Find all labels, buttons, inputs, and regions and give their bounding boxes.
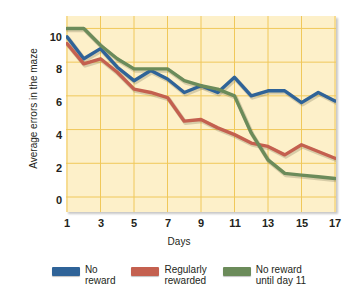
x-tick-label: 11 (223, 218, 247, 229)
legend-label: No reward until day 11 (256, 264, 306, 286)
y-tick-label: 8 (40, 64, 62, 75)
x-tick-label: 9 (189, 218, 213, 229)
plot-area (66, 16, 336, 212)
series-line-shadow (68, 38, 336, 104)
y-axis-tick-labels: 10 8 6 4 2 0 (36, 0, 62, 306)
x-axis-tick-labels: 1 3 5 7 9 11 13 15 17 (0, 218, 358, 234)
legend-swatch-no-reward (52, 267, 80, 276)
x-tick-label: 5 (122, 218, 146, 229)
legend-label: Regularly rewarded (164, 264, 206, 286)
legend-item-regularly-rewarded[interactable]: Regularly rewarded (131, 264, 206, 304)
chart-legend: No reward Regularly rewarded No reward u… (0, 264, 358, 304)
x-tick-label: 17 (323, 218, 347, 229)
plot-canvas (66, 16, 336, 212)
y-tick-label: 4 (40, 130, 62, 141)
x-tick-label: 15 (290, 218, 314, 229)
y-tick-label: 6 (40, 97, 62, 108)
x-tick-label: 7 (156, 218, 180, 229)
legend-swatch-no-reward-until-day-11 (223, 267, 251, 276)
x-tick-label: 1 (55, 218, 79, 229)
legend-swatch-regularly-rewarded (131, 267, 159, 276)
legend-item-no-reward-until-day-11[interactable]: No reward until day 11 (223, 264, 306, 304)
x-tick-label: 3 (89, 218, 113, 229)
x-axis-title: Days (0, 236, 358, 247)
line-chart-figure: Average errors in the maze 10 8 6 4 2 0 … (0, 0, 358, 306)
legend-item-no-reward[interactable]: No reward (52, 264, 116, 304)
y-tick-label: 10 (40, 32, 62, 43)
y-tick-label: 2 (40, 163, 62, 174)
legend-label: No reward (85, 264, 116, 286)
y-tick-label: 0 (40, 195, 62, 206)
x-tick-label: 13 (256, 218, 280, 229)
